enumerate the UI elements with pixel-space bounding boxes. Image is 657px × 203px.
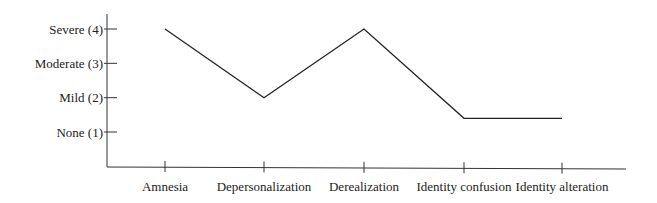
x-axis bbox=[107, 167, 626, 169]
y-ticks: Severe (4)Moderate (3)Mild (2)None (1) bbox=[35, 22, 117, 140]
x-tick-label: Identity confusion bbox=[417, 179, 512, 194]
y-tick-label: Mild (2) bbox=[59, 90, 103, 105]
x-tick-label: Derealization bbox=[329, 179, 400, 194]
line-chart: Severe (4)Moderate (3)Mild (2)None (1) A… bbox=[0, 0, 657, 203]
y-tick-label: None (1) bbox=[56, 125, 103, 140]
y-tick-label: Severe (4) bbox=[49, 22, 103, 37]
x-tick-label: Depersonalization bbox=[217, 179, 312, 194]
axes bbox=[107, 14, 626, 169]
x-tick-label: Amnesia bbox=[142, 179, 188, 194]
x-ticks: AmnesiaDepersonalizationDerealizationIde… bbox=[142, 161, 609, 194]
x-tick-label: Identity alteration bbox=[516, 179, 609, 194]
y-tick-label: Moderate (3) bbox=[35, 56, 103, 71]
series-line bbox=[165, 29, 562, 118]
